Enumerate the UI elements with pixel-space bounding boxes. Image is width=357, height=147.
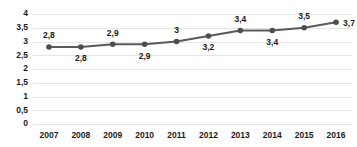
y-axis-tick-label: 1,5	[16, 77, 28, 87]
data-point-label: 3,4	[266, 37, 278, 47]
data-point-marker	[269, 28, 275, 34]
x-axis-tick-labels: 2007200820092010201120122013201420152016	[39, 130, 345, 140]
y-axis-tick-label: 1	[23, 91, 28, 101]
data-point-label: 2,8	[43, 30, 55, 40]
series-line	[49, 22, 336, 47]
y-axis-tick-label: 0,5	[16, 105, 28, 115]
y-axis-tick-label: 3	[23, 36, 28, 46]
data-point-label: 2,9	[107, 28, 119, 38]
data-point-marker	[206, 33, 212, 39]
y-axis-tick-label: 2	[23, 63, 28, 73]
data-point-marker	[174, 39, 180, 45]
data-point-marker	[46, 44, 52, 50]
x-axis-tick-label: 2014	[263, 130, 282, 140]
data-point-marker	[238, 28, 244, 34]
data-point-label: 2,9	[139, 51, 151, 61]
data-point-label: 3,2	[203, 42, 215, 52]
x-axis-tick-label: 2016	[327, 130, 346, 140]
x-axis-tick-label: 2011	[167, 130, 186, 140]
gridlines	[33, 15, 352, 125]
line-path	[49, 22, 336, 47]
line-chart: 00,511,522,533,54 2007200820092010201120…	[0, 0, 357, 147]
y-axis-tick-label: 2,5	[16, 50, 28, 60]
x-axis-tick-label: 2009	[103, 130, 122, 140]
data-point-label: 3,5	[298, 11, 310, 21]
data-point-label: 3,7	[343, 18, 355, 28]
x-axis-tick-label: 2015	[295, 130, 314, 140]
data-point-label: 2,8	[75, 53, 87, 63]
data-point-label: 3,4	[234, 14, 246, 24]
y-axis-tick-labels: 00,511,522,533,54	[16, 8, 28, 128]
x-axis-tick-label: 2013	[231, 130, 250, 140]
data-point-marker	[333, 19, 339, 25]
data-point-marker	[142, 41, 148, 47]
data-point-label: 3	[174, 25, 179, 35]
data-point-marker	[301, 25, 307, 31]
x-axis-tick-label: 2008	[71, 130, 90, 140]
x-axis-tick-label: 2010	[135, 130, 154, 140]
data-point-marker	[110, 41, 116, 47]
y-axis-tick-label: 4	[23, 8, 28, 18]
y-axis-tick-label: 3,5	[16, 22, 28, 32]
x-axis-tick-label: 2007	[39, 130, 58, 140]
x-axis-tick-label: 2012	[199, 130, 218, 140]
chart-canvas: 00,511,522,533,54 2007200820092010201120…	[0, 0, 357, 147]
data-point-marker	[78, 44, 84, 50]
y-axis-tick-label: 0	[23, 118, 28, 128]
